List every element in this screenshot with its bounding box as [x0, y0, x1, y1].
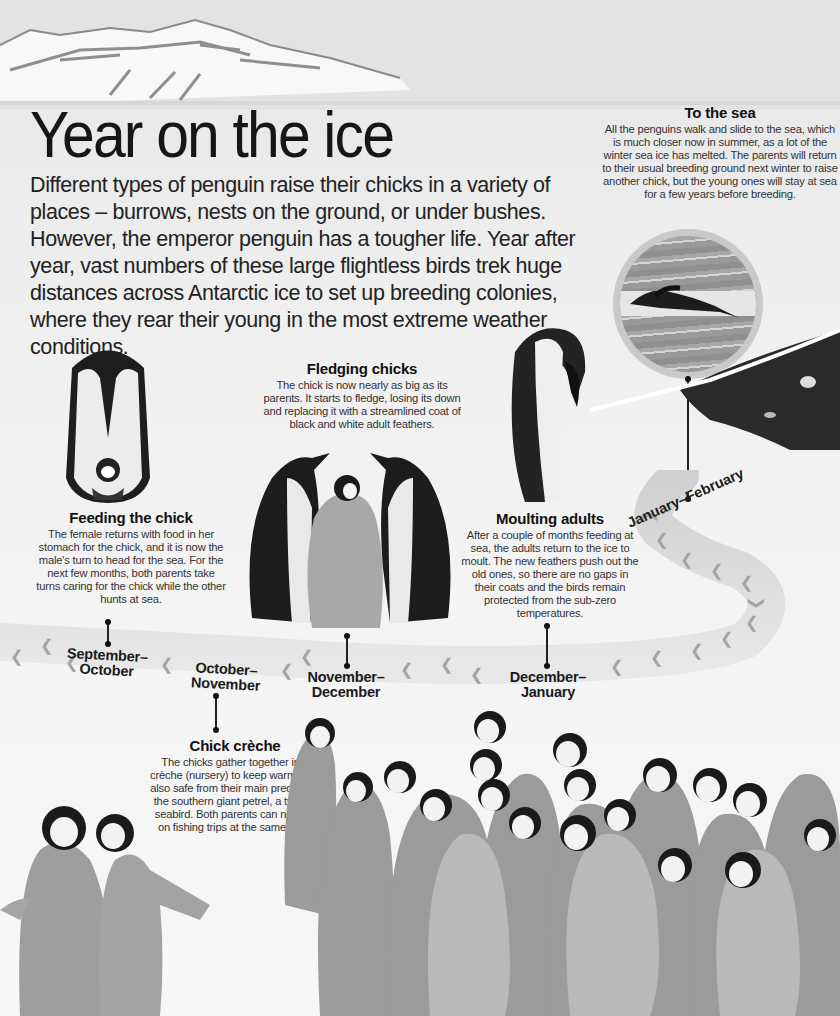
caption-body: The female returns with food in her stom… [36, 528, 226, 606]
caption-moulting-adults: Moulting adults After a couple of months… [460, 510, 640, 620]
svg-text:❮: ❮ [650, 649, 663, 667]
connector-moulting [546, 626, 548, 666]
month-label-january-february: January–February [620, 470, 780, 540]
svg-text:❮: ❮ [745, 614, 758, 632]
moulting-penguin-image [505, 322, 590, 507]
month-label-october-november: October– November [175, 659, 276, 694]
connector-feeding [107, 622, 109, 644]
svg-text:❮: ❮ [610, 658, 623, 676]
caption-heading: To the sea [600, 104, 840, 121]
feeding-penguin-image [62, 338, 154, 506]
chick-pair-image [0, 800, 220, 1016]
month-label-september-october: September– October [51, 645, 162, 681]
month-label-december-january: December– January [496, 670, 600, 700]
caption-to-the-sea: To the sea All the penguins walk and sli… [600, 104, 840, 201]
svg-text:❮: ❮ [400, 661, 413, 679]
svg-text:❮: ❮ [440, 656, 453, 674]
caption-fledging-chicks: Fledging chicks The chick is now nearly … [262, 360, 462, 431]
connector-fledging [346, 636, 348, 666]
svg-text:❮: ❮ [690, 642, 703, 660]
caption-body: After a couple of months feeding at sea,… [460, 529, 640, 620]
connector-creche [215, 696, 217, 730]
svg-text:❮: ❮ [746, 597, 764, 610]
caption-heading: Feeding the chick [36, 509, 226, 526]
svg-text:❮: ❮ [280, 662, 293, 680]
svg-text:January–February: January–February [625, 470, 746, 531]
svg-text:❮: ❮ [740, 574, 753, 592]
svg-text:❮: ❮ [720, 630, 733, 648]
caption-feeding-the-chick: Feeding the chick The female returns wit… [36, 509, 226, 606]
chick-creche-crowd-image [280, 705, 840, 1016]
caption-body: All the penguins walk and slide to the s… [600, 123, 840, 201]
svg-text:❮: ❮ [300, 648, 313, 666]
caption-heading: Moulting adults [460, 510, 640, 527]
svg-text:❮: ❮ [40, 637, 53, 655]
page-title: Year on the ice [30, 103, 393, 167]
fledging-family-image [232, 448, 468, 633]
svg-text:❮: ❮ [680, 551, 693, 569]
caption-body: The chick is now nearly as big as its pa… [262, 379, 462, 431]
svg-text:❮: ❮ [710, 562, 723, 580]
mountain-banner-image [0, 0, 840, 110]
svg-text:❮: ❮ [470, 666, 483, 684]
sea-water-image [590, 320, 840, 450]
caption-heading: Fledging chicks [262, 360, 462, 377]
month-label-november-december: November– December [294, 670, 398, 700]
svg-text:❮: ❮ [10, 648, 23, 666]
